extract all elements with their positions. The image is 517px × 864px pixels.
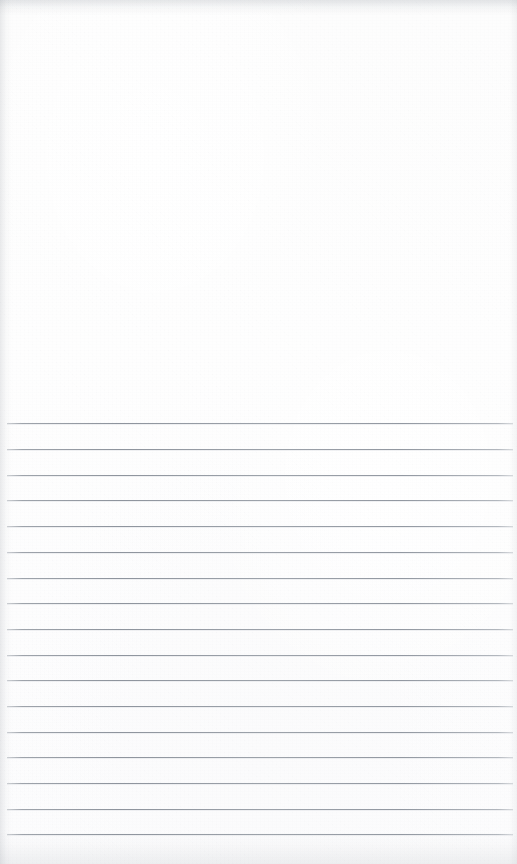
rule-line <box>7 578 513 579</box>
rule-line <box>7 834 513 835</box>
rule-line <box>7 809 513 810</box>
rule-line <box>7 655 513 656</box>
unruled-top-area[interactable] <box>0 0 517 423</box>
rule-line <box>7 423 513 424</box>
ruled-writing-area[interactable] <box>0 423 517 864</box>
rule-line <box>7 757 513 758</box>
rule-line <box>7 732 513 733</box>
rule-line <box>7 552 513 553</box>
rule-line <box>7 526 513 527</box>
rule-line <box>7 629 513 630</box>
rule-line <box>7 449 513 450</box>
lined-paper-page <box>0 0 517 864</box>
rule-line <box>7 680 513 681</box>
rule-line <box>7 500 513 501</box>
rule-line <box>7 706 513 707</box>
rule-line <box>7 603 513 604</box>
rule-line <box>7 783 513 784</box>
rule-line <box>7 475 513 476</box>
